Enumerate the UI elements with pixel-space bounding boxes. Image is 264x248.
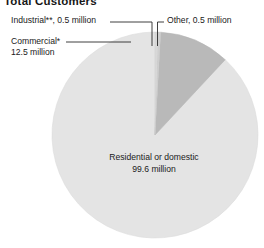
callout-residential: Residential or domestic 99.6 million xyxy=(56,152,252,175)
callout-residential-label: Residential or domestic xyxy=(109,152,198,162)
pie-chart-figure: Total Customers Industrial**, 0.5 millio… xyxy=(0,0,264,248)
callout-commercial-label: Commercial* xyxy=(11,36,60,46)
callout-industrial-label: Industrial**, 0.5 million xyxy=(11,15,96,25)
callout-industrial: Industrial**, 0.5 million xyxy=(11,15,96,26)
callout-commercial-value: 12.5 million xyxy=(11,47,60,58)
callout-residential-value: 99.6 million xyxy=(56,164,252,176)
callout-other: Other, 0.5 million xyxy=(167,15,231,26)
callout-other-label: Other, 0.5 million xyxy=(167,15,231,25)
callout-commercial: Commercial* 12.5 million xyxy=(11,36,60,58)
